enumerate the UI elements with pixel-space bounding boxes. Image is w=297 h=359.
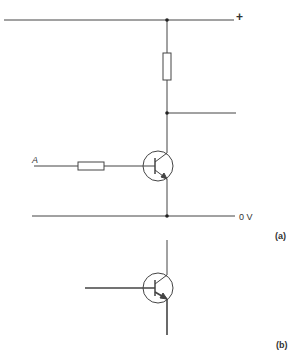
junction-ground — [165, 214, 169, 218]
positive-label: + — [236, 10, 243, 24]
junction-output — [165, 111, 169, 115]
figure-a-label: (a) — [275, 231, 286, 241]
input-label: A — [31, 155, 38, 165]
collector-resistor — [163, 53, 171, 80]
base-resistor — [78, 162, 104, 170]
circuit-diagram: + 0 V A (a) (b) — [0, 0, 297, 359]
ground-label: 0 V — [239, 212, 253, 222]
junction-top — [165, 18, 169, 22]
figure-b-label: (b) — [276, 340, 288, 350]
